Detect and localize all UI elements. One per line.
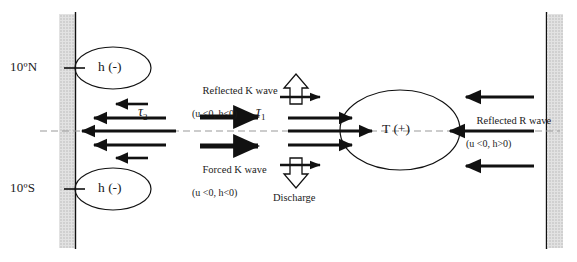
thermocline-anomaly-south-label: h (-): [98, 180, 122, 195]
discharge-arrow-down: [284, 158, 308, 188]
westward-arrow-group: [82, 104, 176, 158]
tau-1-label: τ1: [256, 104, 266, 122]
warm-pool-anomaly-label: T (+): [382, 121, 410, 136]
reflected-r-wave-label: Reflected R wave (u <0, h>0): [466, 103, 551, 173]
eastward-center-arrow-group: [288, 118, 372, 145]
discharge-arrow-up: [284, 74, 308, 104]
tau-2-label: τ2: [138, 104, 148, 122]
forced-k-wave-line2: (u <0, h<0): [192, 187, 267, 198]
latitude-label-south: 10ºS: [10, 181, 35, 196]
tau-2-subscript: 2: [143, 112, 148, 122]
latitude-label-north: 10ºN: [10, 60, 37, 75]
reflected-k-wave-line1: Reflected K wave: [203, 85, 278, 96]
figure-canvas: 10ºN 10ºS h (-) h (-) T (+) Reflected K …: [0, 0, 577, 262]
thermocline-anomaly-north-label: h (-): [98, 59, 122, 74]
discharge-label: Discharge: [273, 192, 315, 204]
tau-1-subscript: 1: [261, 112, 266, 122]
forced-k-wave-label: Forced K wave (u <0, h<0): [192, 152, 267, 222]
forced-k-wave-line1: Forced K wave: [203, 164, 267, 175]
reflected-r-wave-line1: Reflected R wave: [477, 115, 552, 126]
reflected-r-wave-line2: (u <0, h>0): [466, 138, 551, 149]
